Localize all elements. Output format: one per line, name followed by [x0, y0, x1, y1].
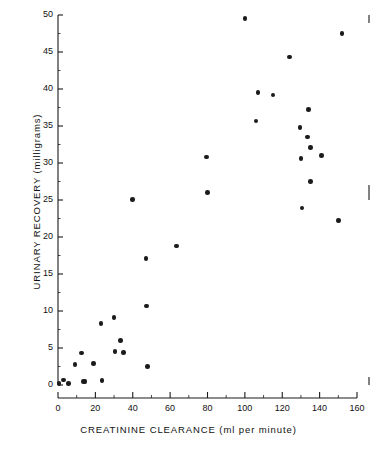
data-point-layer	[0, 0, 377, 449]
y-tick-label: 0	[31, 379, 53, 389]
x-axis-title: CREATININE CLEARANCE (ml per minute)	[0, 424, 377, 435]
y-tick-label: 5	[31, 342, 53, 352]
data-point	[99, 321, 104, 326]
data-point	[336, 218, 341, 223]
data-point	[121, 350, 126, 355]
data-point	[271, 93, 276, 98]
data-point	[308, 145, 313, 150]
x-tick-label: 0	[45, 403, 71, 413]
y-axis-title: URINARY RECOVERY (milligrams)	[31, 87, 42, 317]
data-point	[91, 361, 96, 366]
x-tick-label: 160	[344, 403, 370, 413]
data-point	[57, 381, 62, 386]
data-point	[306, 107, 311, 112]
data-point	[144, 256, 149, 261]
data-point	[112, 315, 117, 320]
data-point	[340, 31, 345, 36]
data-point	[319, 153, 324, 158]
data-point	[299, 156, 304, 161]
data-point	[100, 378, 105, 383]
data-point	[79, 351, 84, 356]
data-point	[256, 90, 261, 95]
data-point	[174, 244, 179, 249]
data-point	[287, 55, 292, 60]
x-tick-label: 100	[232, 403, 258, 413]
data-point	[243, 16, 248, 21]
scatter-plot-figure: 05101520253035404550 0204060801001201401…	[0, 0, 377, 449]
x-tick-label: 80	[195, 403, 221, 413]
x-tick-label: 20	[82, 403, 108, 413]
x-tick-label: 140	[307, 403, 333, 413]
data-point	[308, 179, 313, 184]
data-point	[66, 381, 71, 386]
x-tick-label: 120	[269, 403, 295, 413]
data-point	[145, 364, 150, 369]
data-point	[205, 190, 210, 195]
data-point	[144, 304, 149, 309]
data-point	[305, 135, 310, 140]
data-point	[113, 349, 118, 354]
data-point	[300, 206, 305, 211]
data-point	[83, 379, 88, 384]
data-point	[204, 155, 209, 160]
y-tick-label: 50	[31, 9, 53, 19]
data-point	[298, 125, 303, 130]
data-point	[118, 338, 123, 343]
x-tick-label: 40	[120, 403, 146, 413]
x-tick-label: 60	[157, 403, 183, 413]
data-point	[254, 119, 259, 124]
data-point	[130, 197, 135, 202]
y-tick-label: 45	[31, 46, 53, 56]
data-point	[73, 362, 78, 367]
